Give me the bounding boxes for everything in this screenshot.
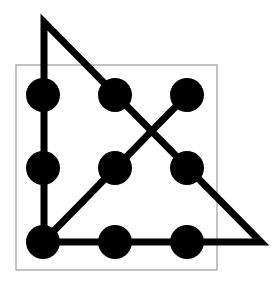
dot-r3c2 <box>98 225 132 259</box>
dot-r1c1 <box>26 78 60 112</box>
dot-r2c3 <box>170 151 204 185</box>
dot-r2c1 <box>26 151 60 185</box>
dot-grid <box>26 78 204 259</box>
dot-r2c2 <box>98 151 132 185</box>
four-line-path <box>43 22 261 242</box>
dot-r1c3 <box>170 78 204 112</box>
dot-r3c1 <box>26 225 60 259</box>
dot-r3c3 <box>170 225 204 259</box>
dot-r1c2 <box>98 78 132 112</box>
nine-dots-diagram <box>0 0 277 284</box>
